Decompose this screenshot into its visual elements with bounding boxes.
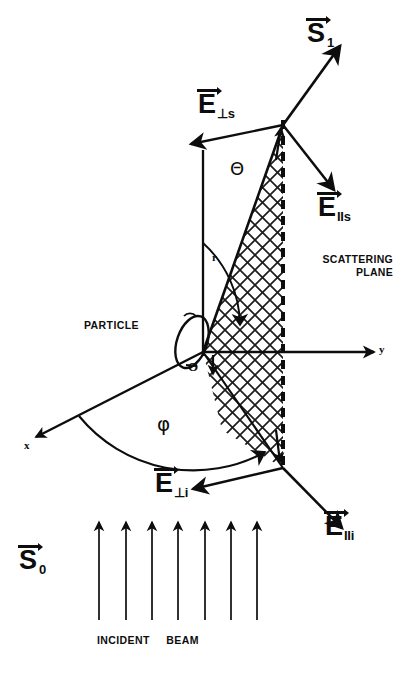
s1-vector-arrow xyxy=(283,46,340,125)
e-perp-s-letter: E xyxy=(198,91,216,118)
s1-subscript: 1 xyxy=(327,36,334,49)
e-par-s-vector-arrow xyxy=(283,125,334,190)
theta-angle-label: Θ xyxy=(230,160,244,178)
e-par-s-subscript: IIs xyxy=(337,210,351,223)
x-axis-label: x xyxy=(24,440,30,451)
e-par-i-vector-label: EIIi xyxy=(325,513,353,540)
e-perp-s-subscript: ⊥s xyxy=(217,107,235,120)
e-par-i-letter: E xyxy=(325,513,343,540)
e-perp-i-letter: E xyxy=(155,470,173,497)
s0-letter: S xyxy=(19,547,37,574)
z-axis-label: z xyxy=(196,136,201,147)
e-perp-i-vector-label: E⊥i xyxy=(155,470,187,497)
radius-label: r xyxy=(212,252,217,263)
e-perp-s-vector-label: E⊥s xyxy=(198,91,234,118)
s0-subscript: 0 xyxy=(39,563,46,576)
incident-beam-label: INCIDENT BEAM xyxy=(97,635,199,646)
s1-vector-label: S1 xyxy=(307,20,332,47)
e-par-s-letter: E xyxy=(318,194,336,221)
e-par-s-vector-label: EIIs xyxy=(318,194,350,221)
origin-label: O xyxy=(188,360,198,373)
scattering-geometry-diagram: S1 E⊥s EIIs E⊥i EIIi S0 z y x O Θ φ r PA… xyxy=(0,0,406,673)
s1-letter: S xyxy=(307,20,325,47)
s0-vector-label: S0 xyxy=(19,547,44,574)
e-perp-i-vector-arrow xyxy=(193,468,283,489)
y-axis-label: y xyxy=(379,344,385,355)
e-perp-s-vector-arrow xyxy=(191,125,283,144)
scattering-plane-label: SCATTERING PLANE xyxy=(293,253,393,279)
incident-beam-arrows xyxy=(99,522,257,620)
e-perp-i-subscript: ⊥i xyxy=(174,486,188,499)
particle-label: PARTICLE xyxy=(84,320,139,331)
e-par-i-subscript: IIi xyxy=(344,529,354,542)
phi-angle-label: φ xyxy=(157,414,170,434)
